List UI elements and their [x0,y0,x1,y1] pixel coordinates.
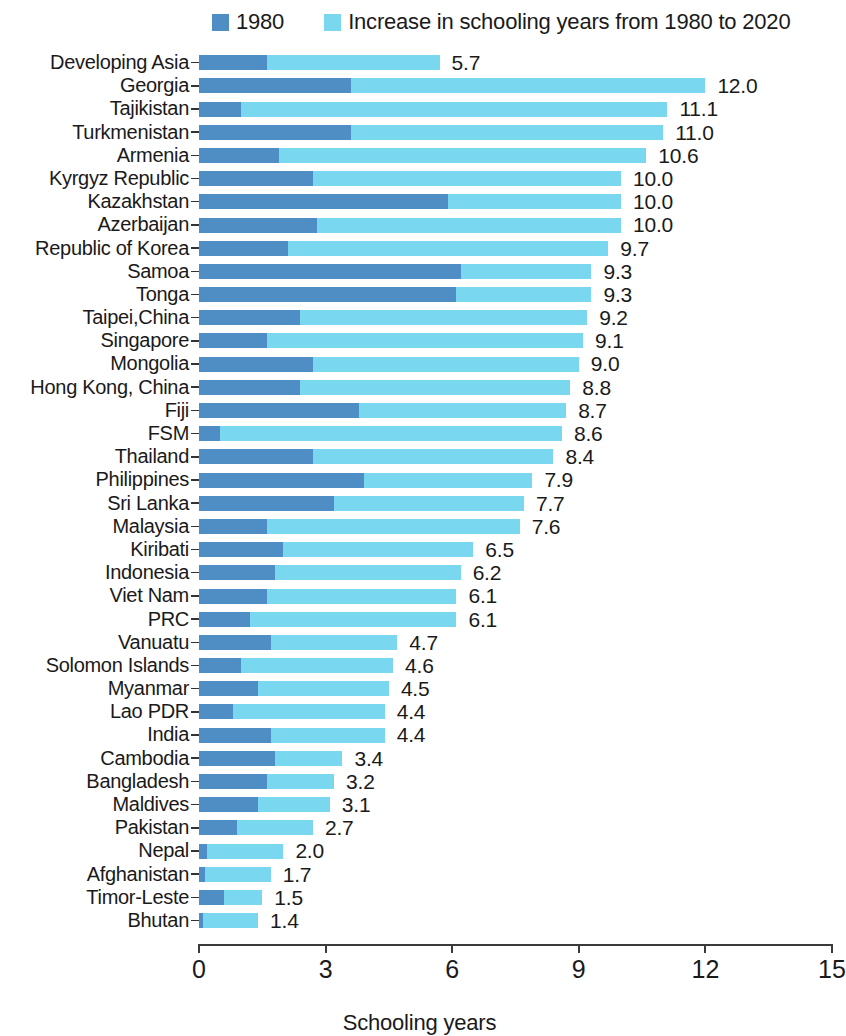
bar-segment-1980[interactable] [199,681,258,696]
bar-row[interactable]: Fiji8.7 [0,399,839,422]
stacked-bar[interactable] [199,681,389,696]
stacked-bar[interactable] [199,890,262,905]
bar-segment-1980[interactable] [199,612,250,627]
stacked-bar[interactable] [199,728,385,743]
bar-segment-increase[interactable] [359,403,566,418]
bar-segment-1980[interactable] [199,751,275,766]
bar-segment-1980[interactable] [199,426,220,441]
stacked-bar[interactable] [199,380,570,395]
stacked-bar[interactable] [199,612,456,627]
bar-segment-1980[interactable] [199,797,258,812]
stacked-bar[interactable] [199,913,258,928]
bar-row[interactable]: Turkmenistan11.0 [0,121,839,144]
bar-row[interactable]: Afghanistan1.7 [0,863,839,886]
stacked-bar[interactable] [199,426,562,441]
bar-segment-increase[interactable] [233,704,385,719]
stacked-bar[interactable] [199,78,705,93]
bar-segment-1980[interactable] [199,565,275,580]
legend-item-0[interactable]: 1980 [212,11,284,33]
bar-segment-1980[interactable] [199,380,300,395]
bar-segment-1980[interactable] [199,55,267,70]
bar-row[interactable]: Kyrgyz Republic10.0 [0,167,839,190]
stacked-bar[interactable] [199,357,579,372]
bar-row[interactable]: Pakistan2.7 [0,816,839,839]
bar-row[interactable]: Kazakhstan10.0 [0,190,839,213]
bar-segment-increase[interactable] [275,565,461,580]
bar-segment-increase[interactable] [456,287,591,302]
bar-segment-1980[interactable] [199,473,364,488]
stacked-bar[interactable] [199,496,524,511]
bar-segment-1980[interactable] [199,844,207,859]
bar-segment-1980[interactable] [199,78,351,93]
bar-segment-increase[interactable] [241,102,667,117]
bar-row[interactable]: Sri Lanka7.7 [0,492,839,515]
bar-segment-1980[interactable] [199,496,334,511]
stacked-bar[interactable] [199,565,461,580]
bar-segment-increase[interactable] [241,658,393,673]
bar-segment-1980[interactable] [199,890,224,905]
stacked-bar[interactable] [199,264,591,279]
bar-row[interactable]: Myanmar4.5 [0,677,839,700]
stacked-bar[interactable] [199,542,473,557]
bar-segment-increase[interactable] [461,264,592,279]
bar-row[interactable]: India4.4 [0,723,839,746]
bar-segment-increase[interactable] [267,333,584,348]
bar-segment-1980[interactable] [199,542,283,557]
stacked-bar[interactable] [199,635,397,650]
bar-segment-increase[interactable] [351,125,663,140]
bar-row[interactable]: Hong Kong, China8.8 [0,376,839,399]
bar-segment-increase[interactable] [448,194,621,209]
stacked-bar[interactable] [199,658,393,673]
bar-row[interactable]: Philippines7.9 [0,468,839,491]
bar-segment-increase[interactable] [207,844,283,859]
bar-segment-increase[interactable] [313,357,579,372]
bar-segment-increase[interactable] [258,681,389,696]
bar-row[interactable]: Samoa9.3 [0,260,839,283]
stacked-bar[interactable] [199,218,621,233]
bar-segment-1980[interactable] [199,658,241,673]
bar-row[interactable]: Solomon Islands4.6 [0,654,839,677]
bar-row[interactable]: Georgia12.0 [0,74,839,97]
stacked-bar[interactable] [199,519,520,534]
bar-segment-increase[interactable] [283,542,473,557]
bar-segment-increase[interactable] [267,589,457,604]
bar-segment-increase[interactable] [300,380,570,395]
bar-segment-increase[interactable] [250,612,457,627]
bar-segment-1980[interactable] [199,728,271,743]
bar-segment-increase[interactable] [313,171,621,186]
bar-segment-increase[interactable] [205,867,270,882]
bar-segment-1980[interactable] [199,820,237,835]
stacked-bar[interactable] [199,287,591,302]
bar-row[interactable]: Tajikistan11.1 [0,97,839,120]
stacked-bar[interactable] [199,333,583,348]
bar-segment-increase[interactable] [313,449,554,464]
stacked-bar[interactable] [199,403,566,418]
bar-segment-1980[interactable] [199,171,313,186]
bar-row[interactable]: Cambodia3.4 [0,747,839,770]
stacked-bar[interactable] [199,194,621,209]
bar-segment-1980[interactable] [199,519,267,534]
bar-segment-increase[interactable] [271,728,385,743]
bar-segment-1980[interactable] [199,449,313,464]
bar-row[interactable]: Taipei,China9.2 [0,306,839,329]
bar-row[interactable]: FSM8.6 [0,422,839,445]
bar-segment-increase[interactable] [279,148,646,163]
bar-segment-1980[interactable] [199,704,233,719]
bar-segment-increase[interactable] [275,751,343,766]
stacked-bar[interactable] [199,148,646,163]
bar-row[interactable]: Bhutan1.4 [0,909,839,932]
stacked-bar[interactable] [199,704,385,719]
bar-row[interactable]: Tonga9.3 [0,283,839,306]
bar-segment-increase[interactable] [271,635,398,650]
bar-row[interactable]: Timor-Leste1.5 [0,886,839,909]
bar-segment-increase[interactable] [317,218,621,233]
stacked-bar[interactable] [199,55,440,70]
stacked-bar[interactable] [199,774,334,789]
bar-row[interactable]: Armenia10.6 [0,144,839,167]
stacked-bar[interactable] [199,241,608,256]
bar-segment-1980[interactable] [199,333,267,348]
stacked-bar[interactable] [199,102,667,117]
bar-segment-increase[interactable] [364,473,533,488]
bar-segment-1980[interactable] [199,774,267,789]
stacked-bar[interactable] [199,820,313,835]
